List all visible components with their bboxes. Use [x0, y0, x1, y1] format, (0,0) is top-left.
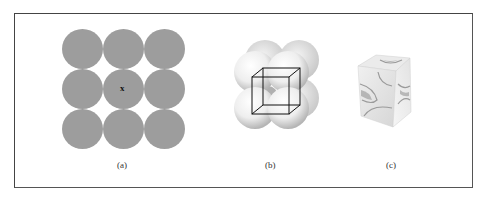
panel-label-c: (c): [386, 160, 396, 170]
unit-cube-cutaway-illustration: [0, 0, 491, 197]
